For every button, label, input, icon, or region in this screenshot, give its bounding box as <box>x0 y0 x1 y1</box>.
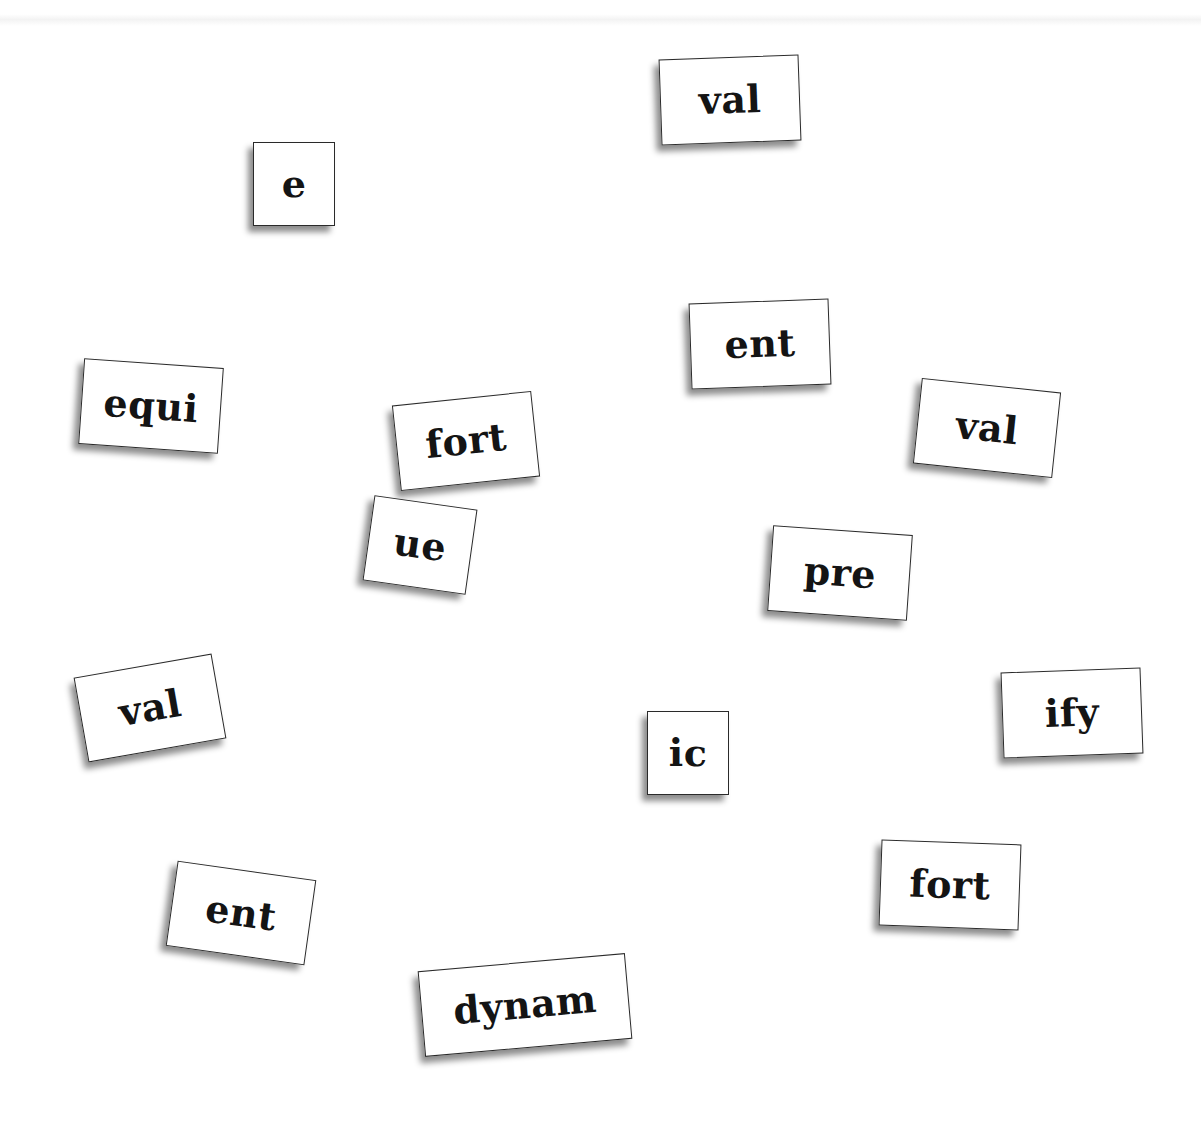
tile-text: pre <box>803 552 878 595</box>
word-tile-ent[interactable]: ent <box>166 861 317 966</box>
tile-text: val <box>698 80 762 120</box>
tile-text: e <box>282 165 307 203</box>
word-tile-pre[interactable]: pre <box>767 525 913 621</box>
word-tile-val[interactable]: val <box>74 653 227 762</box>
tile-text: ue <box>391 523 449 568</box>
tile-text: val <box>116 684 184 732</box>
tile-text: equi <box>102 384 199 429</box>
tile-text: val <box>954 406 1020 450</box>
tile-text: fort <box>909 865 992 906</box>
word-tile-dynam[interactable]: dynam <box>418 953 633 1057</box>
tile-text: ic <box>669 734 708 772</box>
word-tile-ue[interactable]: ue <box>363 495 478 595</box>
tile-text: dynam <box>452 980 598 1030</box>
word-tile-fort[interactable]: fort <box>392 391 540 491</box>
word-tile-e[interactable]: e <box>253 142 335 226</box>
tile-text: ent <box>203 889 278 936</box>
word-tile-val[interactable]: val <box>913 378 1061 478</box>
word-tile-equi[interactable]: equi <box>78 358 224 454</box>
word-tile-ent[interactable]: ent <box>689 299 832 390</box>
word-tile-ic[interactable]: ic <box>647 711 729 795</box>
word-tile-ify[interactable]: ify <box>1001 668 1144 759</box>
word-tile-val[interactable]: val <box>659 55 802 146</box>
tile-text: fort <box>424 418 509 464</box>
tile-text: ify <box>1044 693 1100 733</box>
top-edge-band <box>0 0 1201 26</box>
tile-text: ent <box>724 324 796 364</box>
word-tile-fort[interactable]: fort <box>879 840 1022 931</box>
